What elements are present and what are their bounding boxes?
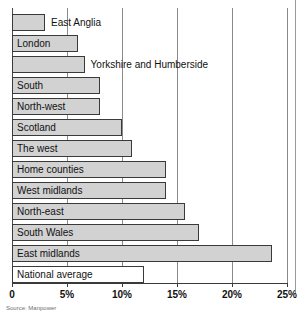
x-axis-line: [12, 283, 288, 284]
bar-row: West midlands: [12, 182, 287, 199]
bar-label: South Wales: [17, 224, 73, 241]
bar-row: Home counties: [12, 161, 287, 178]
chart-right-border: [295, 0, 296, 293]
source-note: Source: Manpower: [6, 305, 56, 311]
tick-mark: [232, 283, 233, 287]
x-tick-label: 25%: [277, 289, 297, 300]
bar-row: South Wales: [12, 224, 287, 241]
bar: [12, 14, 45, 31]
bars-layer: East AngliaLondonYorkshire and Humbersid…: [12, 8, 287, 283]
x-tick-label: 15%: [167, 289, 187, 300]
bar-label: North-east: [17, 203, 64, 220]
bar-row: North-east: [12, 203, 287, 220]
tick-mark: [287, 283, 288, 287]
bar-label: East midlands: [17, 245, 80, 262]
plot-area: East AngliaLondonYorkshire and Humbersid…: [12, 8, 287, 283]
bar-row: North-west: [12, 98, 287, 115]
bar-label: The west: [17, 140, 58, 157]
tick-mark: [67, 283, 68, 287]
x-tick-label: 5%: [60, 289, 74, 300]
bar-label: London: [17, 35, 50, 52]
bar-row: Scotland: [12, 119, 287, 136]
bar: [12, 56, 85, 73]
x-tick-label: 20%: [222, 289, 242, 300]
x-tick-label: 0: [9, 289, 15, 300]
bar-label: Yorkshire and Humberside: [85, 56, 208, 73]
tick-mark: [177, 283, 178, 287]
bar-chart: East AngliaLondonYorkshire and Humbersid…: [0, 0, 301, 319]
bar-label: Home counties: [17, 161, 84, 178]
bar-label: East Anglia: [45, 14, 101, 31]
bar-row: Yorkshire and Humberside: [12, 56, 287, 73]
tick-mark: [122, 283, 123, 287]
bar-label: Scotland: [17, 119, 56, 136]
bar-row: The west: [12, 140, 287, 157]
tick-mark: [12, 283, 13, 287]
bar-row: East midlands: [12, 245, 287, 262]
bar-label: West midlands: [17, 182, 82, 199]
bar-label: National average: [17, 266, 93, 283]
bar-label: South: [17, 77, 43, 94]
bar-row: East Anglia: [12, 14, 287, 31]
gridline-25%: [287, 8, 288, 283]
bar-row: London: [12, 35, 287, 52]
bar-label: North-west: [17, 98, 65, 115]
x-tick-label: 10%: [112, 289, 132, 300]
bar-row: National average: [12, 266, 287, 283]
bar-row: South: [12, 77, 287, 94]
